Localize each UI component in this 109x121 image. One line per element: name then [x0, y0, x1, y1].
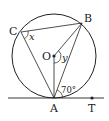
- label-angle-y: y: [61, 52, 68, 63]
- center-point-o: [52, 54, 55, 57]
- label-c: C: [9, 25, 17, 38]
- circle-tangent-diagram: C x B O y 70° A T: [0, 0, 109, 121]
- segment-ob: [54, 23, 82, 56]
- point-t: [90, 96, 93, 99]
- label-angle-x: x: [29, 31, 35, 42]
- label-o: O: [42, 50, 51, 63]
- angle-x-arc: [25, 31, 29, 39]
- label-t: T: [88, 102, 96, 115]
- label-a: A: [49, 102, 59, 115]
- label-b: B: [84, 12, 92, 25]
- segment-ca: [21, 32, 54, 98]
- label-angle-70: 70°: [61, 85, 76, 95]
